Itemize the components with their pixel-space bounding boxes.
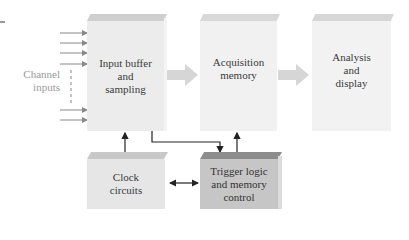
channel-input-arrows [60, 33, 87, 120]
fat-arrow-acq-to-analysis [278, 64, 309, 86]
channel-inputs-label: Channel inputs [20, 68, 60, 94]
fat-arrow-input-to-acq [166, 64, 198, 86]
analysis-display-label: Analysis and display [332, 51, 371, 90]
clock-circuits-label: Clock circuits [110, 171, 142, 197]
trigger-logic-label: Trigger logic and memory control [210, 165, 267, 204]
input-buffer-label: Input buffer and sampling [99, 57, 152, 96]
acquisition-memory-label: Acquisition memory [213, 56, 264, 82]
